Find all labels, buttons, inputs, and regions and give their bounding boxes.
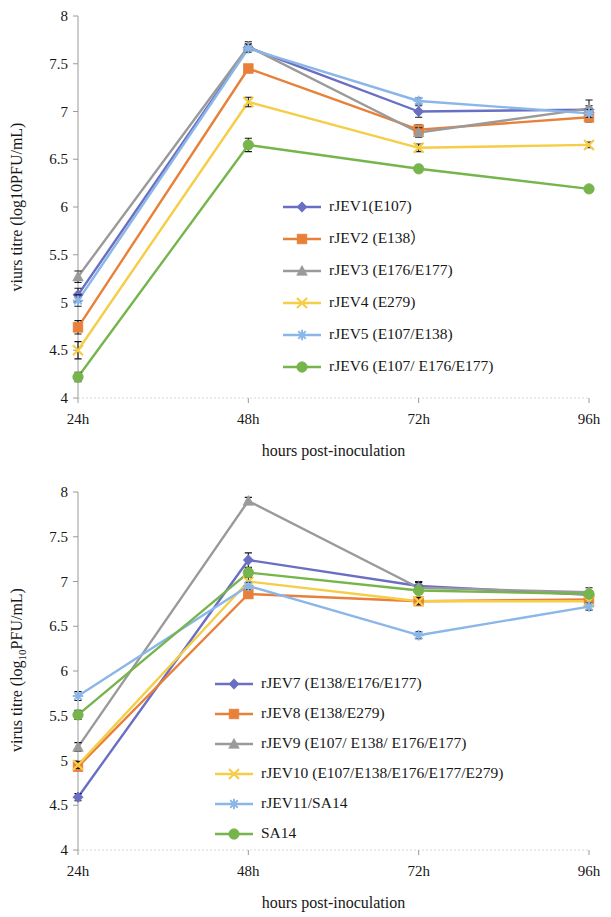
data-point-diamond[interactable] (297, 202, 307, 212)
data-point-circle[interactable] (584, 589, 594, 599)
y-axis-title-tail: PFU/mL) (8, 588, 26, 649)
y-tick-label: 4.5 (49, 797, 68, 813)
data-point-asterisk[interactable] (243, 43, 253, 53)
marker-asterisk (243, 581, 253, 591)
data-point-circle[interactable] (413, 164, 423, 174)
legend-item-label[interactable]: rJEV4 (E279) (329, 293, 416, 311)
data-point-circle[interactable] (243, 567, 253, 577)
marker-asterisk (73, 691, 83, 701)
data-point-diamond[interactable] (229, 679, 239, 689)
marker-diamond (229, 679, 239, 689)
figure-root: 44.555.566.577.5824h48h72h96hrJEV1(E107)… (0, 0, 611, 917)
y-tick-label: 7.5 (49, 529, 68, 545)
marker-square (244, 64, 254, 74)
marker-circle (413, 164, 423, 174)
y-tick-label: 4 (61, 842, 69, 858)
marker-circle (297, 362, 307, 372)
marker-asterisk (413, 630, 423, 640)
marker-circle (73, 372, 83, 382)
y-axis-title: viurs titre (log10PFU/mL) (8, 123, 26, 292)
legend-item-label[interactable]: rJEV10 (E107/E138/E176/E177/E279) (261, 764, 503, 782)
data-point-circle[interactable] (413, 585, 423, 595)
marker-diamond (414, 106, 424, 116)
y-tick-label: 8 (61, 8, 69, 24)
y-axis-title-subscript: 10 (16, 649, 28, 661)
data-point-circle[interactable] (584, 184, 594, 194)
legend-item-label[interactable]: rJEV9 (E107/ E138/ E176/E177) (261, 734, 466, 752)
y-tick-label: 8 (61, 484, 69, 500)
marker-circle (73, 710, 83, 720)
y-tick-label: 6.5 (49, 618, 68, 634)
marker-diamond (297, 202, 307, 212)
data-point-asterisk[interactable] (584, 601, 594, 611)
data-point-square[interactable] (73, 323, 83, 333)
legend-item-label[interactable]: rJEV7 (E138/E176/E177) (261, 674, 422, 692)
series-6 (78, 573, 589, 715)
data-point-square[interactable] (244, 64, 254, 74)
marker-circle (413, 585, 423, 595)
legend: rJEV1(E107)rJEV2 (E138）rJEV3 (E176/E177)… (283, 197, 493, 375)
y-tick-label: 7.5 (49, 56, 68, 72)
data-point-asterisk[interactable] (73, 691, 83, 701)
marker-circle (229, 829, 239, 839)
series-4 (78, 102, 589, 350)
legend-item-label[interactable]: rJEV2 (E138） (329, 229, 426, 247)
marker-square (229, 709, 239, 719)
data-point-circle[interactable] (297, 362, 307, 372)
legend-item-label[interactable]: rJEV5 (E107/E138) (329, 325, 453, 343)
data-point-asterisk[interactable] (584, 108, 594, 118)
legend-item-label[interactable]: rJEV6 (E107/ E176/E177) (329, 357, 493, 375)
marker-asterisk (584, 601, 594, 611)
x-tick-label: 24h (67, 411, 90, 427)
y-tick-label: 7 (61, 574, 69, 590)
y-tick-label: 6.5 (49, 151, 68, 167)
data-point-diamond[interactable] (414, 106, 424, 116)
x-tick-label: 96h (578, 863, 601, 879)
data-point-circle[interactable] (229, 829, 239, 839)
marker-asterisk (413, 96, 423, 106)
legend-item-label[interactable]: rJEV3 (E176/E177) (329, 261, 453, 279)
legend-item-label[interactable]: rJEV1(E107) (329, 197, 412, 215)
x-tick-label: 24h (67, 863, 90, 879)
marker-asterisk (297, 330, 307, 340)
data-point-circle[interactable] (73, 710, 83, 720)
y-tick-label: 5 (61, 295, 69, 311)
legend-item-label[interactable]: rJEV8 (E138/E279) (261, 704, 385, 722)
y-tick-label: 5.5 (49, 708, 68, 724)
data-point-asterisk[interactable] (73, 295, 83, 305)
marker-square (297, 234, 307, 244)
data-point-asterisk[interactable] (413, 96, 423, 106)
marker-asterisk (229, 799, 239, 809)
data-point-asterisk[interactable] (243, 581, 253, 591)
data-point-square[interactable] (229, 709, 239, 719)
y-tick-label: 5.5 (49, 247, 68, 263)
y-tick-label: 7 (61, 104, 69, 120)
line-chart-bottom: 44.555.566.577.5824h48h72h96hrJEV7 (E138… (0, 470, 611, 917)
y-tick-label: 6 (61, 199, 69, 215)
marker-circle (584, 184, 594, 194)
line-chart-top: 44.555.566.577.5824h48h72h96hrJEV1(E107)… (0, 0, 611, 470)
y-axis-title: virus titre (log10PFU/mL) (8, 588, 28, 752)
series-line[interactable] (78, 573, 589, 715)
legend: rJEV7 (E138/E176/E177)rJEV8 (E138/E279)r… (215, 674, 503, 841)
data-point-triangle[interactable] (243, 496, 253, 506)
data-point-asterisk[interactable] (297, 330, 307, 340)
y-tick-label: 4 (61, 390, 69, 406)
chart-panel-top: 44.555.566.577.5824h48h72h96hrJEV1(E107)… (0, 0, 611, 470)
marker-asterisk (584, 108, 594, 118)
marker-asterisk (243, 43, 253, 53)
x-tick-label: 72h (407, 411, 430, 427)
data-point-asterisk[interactable] (229, 799, 239, 809)
data-point-asterisk[interactable] (413, 630, 423, 640)
legend-item-label[interactable]: rJEV11/SA14 (261, 794, 348, 811)
legend-item-label[interactable]: SA14 (261, 824, 297, 841)
marker-asterisk (73, 295, 83, 305)
x-axis-title: hours post-inoculation (262, 442, 406, 460)
data-point-square[interactable] (297, 234, 307, 244)
data-point-circle[interactable] (73, 372, 83, 382)
series-line[interactable] (78, 102, 589, 350)
data-point-circle[interactable] (243, 140, 253, 150)
marker-triangle (243, 496, 253, 506)
y-tick-label: 4.5 (49, 342, 68, 358)
y-tick-label: 5 (61, 753, 69, 769)
